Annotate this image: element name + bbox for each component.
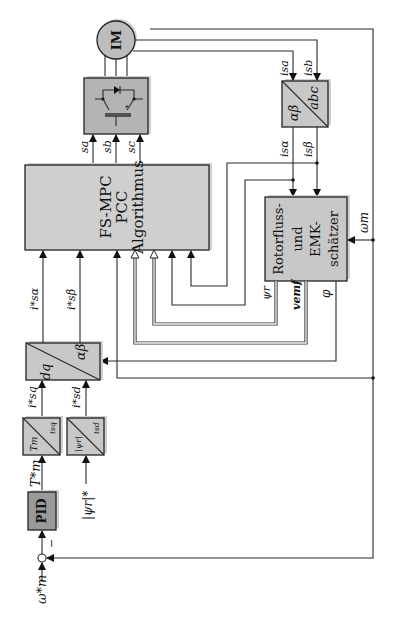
alphabeta-out-label: αβ: [73, 344, 88, 360]
is-beta-label: isβ: [302, 141, 315, 157]
fs-mpc-algorithm: Algorithmus: [129, 160, 147, 255]
pid-block: PID: [28, 490, 59, 530]
sa-label: sa: [78, 141, 91, 153]
summing-junction: [38, 554, 46, 562]
svg-text:isd: isd: [92, 422, 101, 434]
minus-sign: −: [45, 539, 58, 548]
isd-ref-label: i*sd: [70, 386, 83, 408]
svg-text:Tm: Tm: [29, 437, 39, 452]
pid-label: PID: [35, 498, 49, 523]
isa-label: isa: [278, 60, 291, 76]
is-alpha-ref-label: i*sα: [28, 287, 41, 310]
isa-line: [133, 51, 293, 80]
svg-text:|ψr|: |ψr|: [74, 436, 83, 452]
induction-motor: IM: [97, 19, 137, 59]
omega-m-label: ωm: [357, 212, 371, 233]
sb-label: sb: [101, 140, 114, 153]
fs-mpc-block: FS-MPC PCC Algorithmus: [25, 160, 212, 255]
svg-text:EMK-: EMK-: [308, 221, 323, 257]
flux-emf-estimator-block: Rotorfluss- und EMK- schätzer: [265, 195, 350, 281]
flux-to-isd-block: |ψr| isd: [67, 416, 107, 455]
inverter-block: [84, 76, 151, 134]
sc-label: sc: [125, 141, 138, 153]
abc-to-alphabeta-block: abc αβ: [282, 79, 331, 127]
alphabeta-label: αβ: [286, 105, 301, 121]
phi-label: φ: [319, 289, 333, 298]
tm-ref-label: T*m: [28, 460, 43, 488]
dq-label: dq: [38, 364, 53, 381]
psi-ref-label: |ψr|*: [81, 491, 95, 520]
isb-label: isb: [302, 60, 315, 76]
abc-label: abc: [306, 86, 321, 110]
isq-ref-label: i*sq: [26, 386, 39, 408]
svg-text:und: und: [290, 226, 305, 251]
v-emf-label: vemf: [290, 278, 303, 310]
psi-r-arrowhead: [150, 250, 158, 258]
svg-text:schätzer: schätzer: [326, 210, 341, 267]
svg-text:Rotorfluss-: Rotorfluss-: [271, 203, 286, 275]
is-beta-ref-label: i*sβ: [65, 289, 78, 310]
torque-to-isq-block: Tm isq: [23, 416, 63, 455]
is-alpha-label: isα: [278, 140, 291, 157]
svg-text:isq: isq: [48, 422, 57, 434]
psi-r-label: ψr: [260, 285, 273, 300]
motor-label: IM: [109, 30, 124, 50]
dq-to-alphabeta-block: dq αβ: [26, 341, 103, 380]
omega-ref-label: ω*m: [34, 575, 49, 604]
control-block-diagram: IM sa sb sc FS-MPC PCC Algorithmus: [0, 0, 397, 626]
